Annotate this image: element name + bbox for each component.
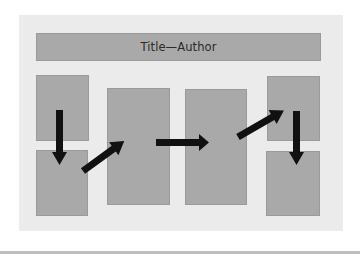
arrow-up-right-icon [78,135,129,178]
arrow-right-icon [156,134,209,151]
arrow-up-right-icon [234,104,288,144]
arrow-down-icon [52,110,67,165]
diagram-stage: Title—Author [0,0,360,254]
arrow-down-icon [289,111,304,165]
